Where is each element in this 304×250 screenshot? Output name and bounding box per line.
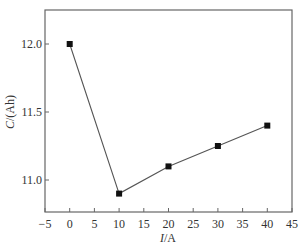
square-marker xyxy=(166,163,172,169)
x-tick-label: 10 xyxy=(113,217,125,231)
y-axis-label: C/(Ah) xyxy=(3,95,17,129)
square-marker xyxy=(215,143,221,149)
x-tick-label: 5 xyxy=(91,217,97,231)
x-tick-label: 0 xyxy=(67,217,73,231)
plot-frame xyxy=(45,10,292,212)
square-marker xyxy=(67,41,73,47)
x-axis-label: I/A xyxy=(159,231,176,245)
x-tick-label: 45 xyxy=(286,217,298,231)
x-tick-label: 35 xyxy=(237,217,249,231)
square-marker xyxy=(264,123,270,129)
x-tick-label: 15 xyxy=(138,217,150,231)
chart: −5051015202530354045 11.011.512.0 I/A C/… xyxy=(0,0,304,250)
x-tick-label: 40 xyxy=(261,217,273,231)
data-markers xyxy=(67,41,271,197)
square-marker xyxy=(116,191,122,197)
y-tick-label: 11.0 xyxy=(21,173,42,187)
y-tick-label: 11.5 xyxy=(21,105,42,119)
x-tick-label: 25 xyxy=(187,217,199,231)
data-line xyxy=(70,44,268,194)
y-tick-label: 12.0 xyxy=(21,37,42,51)
x-tick-label: 20 xyxy=(163,217,175,231)
x-tick-label: 30 xyxy=(212,217,224,231)
x-tick-label: −5 xyxy=(39,217,52,231)
